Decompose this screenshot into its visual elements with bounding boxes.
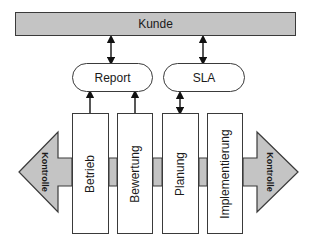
report-node: Report [72, 63, 153, 92]
betrieb-label: Betrieb [84, 154, 98, 192]
sla-label: SLA [193, 71, 216, 85]
process-box-betrieb: Betrieb [72, 113, 109, 234]
process-box-implementierung: Implementierung [207, 113, 243, 234]
control-band-segment [153, 158, 162, 186]
planung-label: Planung [174, 151, 188, 195]
kunde-label: Kunde [138, 17, 173, 31]
right-kontrolle-label: Kontrolle [265, 152, 275, 192]
left-control-label-wrap: Kontrolle [20, 140, 70, 204]
right-control-label-wrap: Kontrolle [245, 140, 295, 204]
implementierung-label: Implementierung [218, 129, 232, 218]
kunde-bar: Kunde [15, 12, 296, 36]
diagram-shapes [0, 0, 315, 248]
control-band-segment [199, 158, 207, 186]
report-label: Report [94, 71, 130, 85]
bewertung-label: Bewertung [128, 145, 142, 202]
left-kontrolle-label: Kontrolle [40, 152, 50, 192]
process-box-bewertung: Bewertung [117, 113, 153, 234]
sla-node: SLA [163, 63, 245, 92]
process-box-planung: Planung [162, 113, 199, 234]
control-band-segment [109, 158, 117, 186]
